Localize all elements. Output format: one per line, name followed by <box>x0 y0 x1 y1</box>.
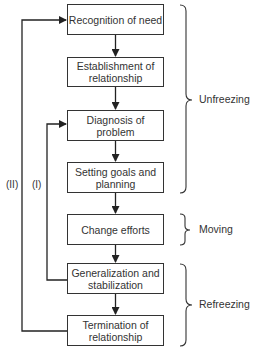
step-generalization-and-stabilization: Generalization and stabilization <box>67 263 164 294</box>
step-label: Establishment of relationship <box>68 60 163 84</box>
step-establishment-of-relationship: Establishment of relationship <box>67 57 164 87</box>
step-label: Recognition of need <box>69 14 162 26</box>
phase-label-moving: Moving <box>199 223 233 235</box>
step-label: Change efforts <box>81 224 150 236</box>
step-change-efforts: Change efforts <box>67 214 164 245</box>
phase-label-unfreezing: Unfreezing <box>199 93 250 105</box>
step-label: Setting goals and planning <box>68 166 163 190</box>
phase-label-refreezing: Refreezing <box>199 298 250 310</box>
step-setting-goals-and-planning: Setting goals and planning <box>67 162 164 193</box>
step-label: Termination of relationship <box>68 319 163 343</box>
step-recognition-of-need: Recognition of need <box>67 4 164 35</box>
step-label: Diagnosis of problem <box>68 114 163 138</box>
step-label: Generalization and stabilization <box>68 267 163 291</box>
loop-label-i: (I) <box>32 179 41 190</box>
step-termination-of-relationship: Termination of relationship <box>67 315 164 346</box>
step-diagnosis-of-problem: Diagnosis of problem <box>67 110 164 141</box>
loop-label-ii: (II) <box>6 179 18 190</box>
